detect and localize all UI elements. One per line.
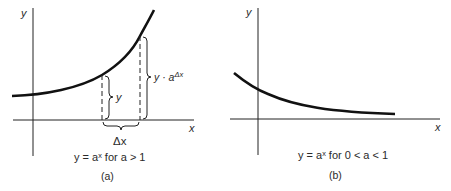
panel-a-brace-dx [103, 122, 139, 130]
panel-a: y x y y · aΔx Δx y = aˣ for a > 1 (a) [12, 7, 195, 182]
panel-a-caption: y = aˣ for a > 1 [74, 151, 145, 163]
panel-b-tag: (b) [329, 169, 342, 181]
panel-a-brace-y-adx-exponent: Δx [173, 70, 183, 79]
panel-a-brace-y-adx [143, 37, 151, 119]
panel-a-brace-y-adx-base: y · a [153, 71, 175, 83]
panel-a-brace-dx-label: Δx [113, 135, 127, 147]
panel-a-brace-y [105, 76, 113, 119]
panel-b-y-axis-label: y [245, 6, 253, 18]
panel-a-brace-y-adx-label: y · aΔx [153, 70, 183, 83]
panel-b: y x y = aˣ for 0 < a < 1 (b) [230, 6, 441, 181]
exponential-diagram: y x y y · aΔx Δx y = aˣ for a > 1 (a) y … [0, 0, 451, 191]
panel-b-x-axis-label: x [434, 121, 441, 133]
panel-a-brace-y-label: y [115, 91, 123, 103]
panel-a-y-axis-label: y [20, 7, 28, 19]
panel-b-caption: y = aˣ for 0 < a < 1 [298, 149, 388, 161]
panel-a-x-axis-label: x [188, 122, 195, 134]
panel-a-tag: (a) [101, 170, 114, 182]
